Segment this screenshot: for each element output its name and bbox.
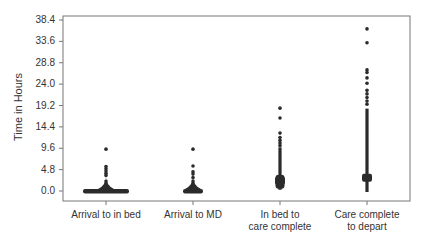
data-point: [365, 41, 369, 45]
data-point: [191, 170, 195, 174]
y-tick-label: 33.6: [25, 35, 55, 46]
y-tick-label: 28.8: [25, 57, 55, 68]
data-point: [104, 165, 108, 169]
y-tick-label: 9.6: [25, 142, 55, 153]
data-point: [191, 147, 195, 151]
data-point: [365, 92, 369, 96]
y-axis-label: Time in Hours: [12, 73, 24, 141]
chart-container: Time in Hours 0.04.89.614.419.224.028.83…: [0, 0, 430, 243]
y-tick-label: 0.0: [25, 185, 55, 196]
data-point: [278, 131, 282, 135]
plot-area: [0, 0, 430, 243]
data-point: [278, 136, 282, 140]
data-point: [365, 99, 369, 103]
data-point: [365, 96, 369, 100]
data-point: [278, 106, 282, 110]
y-tick-label: 4.8: [25, 164, 55, 175]
data-cluster: [83, 189, 129, 194]
data-cluster-flare: [98, 177, 114, 189]
data-point: [191, 164, 195, 168]
y-tick-label: 14.4: [25, 121, 55, 132]
x-tick-label: Care complete to depart: [322, 209, 412, 233]
data-cluster: [276, 175, 285, 189]
data-point: [365, 81, 369, 85]
data-point: [365, 68, 369, 72]
x-tick-label: Arrival to in bed: [61, 209, 151, 221]
y-tick-label: 19.2: [25, 100, 55, 111]
y-tick-label: 38.4: [25, 14, 55, 25]
data-point: [365, 76, 369, 80]
data-cluster: [362, 174, 372, 182]
data-point: [278, 116, 282, 120]
plot-frame: [63, 16, 410, 201]
x-tick-label: In bed to care complete: [235, 209, 325, 233]
data-point: [365, 89, 369, 93]
data-point: [104, 147, 108, 151]
data-point: [365, 102, 369, 106]
data-point: [365, 27, 369, 31]
data-point: [191, 176, 195, 180]
x-tick-label: Arrival to MD: [148, 209, 238, 221]
y-tick-label: 24.0: [25, 78, 55, 89]
data-cluster: [183, 189, 203, 194]
